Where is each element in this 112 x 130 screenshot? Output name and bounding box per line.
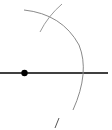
center-point <box>21 70 27 76</box>
main-compass-arc <box>24 10 83 110</box>
bottom-arc-mark <box>55 118 59 128</box>
construction-diagram <box>0 0 112 130</box>
